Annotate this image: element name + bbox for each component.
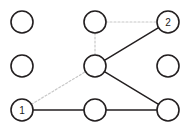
graph-node-n22[interactable] xyxy=(157,99,179,121)
node-circle-n21[interactable] xyxy=(84,99,106,121)
graph-node-n10[interactable] xyxy=(11,55,33,77)
node-circle-n02[interactable] xyxy=(157,11,179,33)
graph-node-n01[interactable] xyxy=(84,11,106,33)
diagram-canvas: 21 xyxy=(0,0,187,131)
graph-node-n20[interactable]: 1 xyxy=(11,99,33,121)
node-circle-n01[interactable] xyxy=(84,11,106,33)
node-circle-n20[interactable] xyxy=(11,99,33,121)
graph-node-n12[interactable] xyxy=(157,55,179,77)
node-circle-n10[interactable] xyxy=(11,55,33,77)
graph-node-n11[interactable] xyxy=(84,55,106,77)
graph-node-n21[interactable] xyxy=(84,99,106,121)
graph-node-n02[interactable]: 2 xyxy=(157,11,179,33)
graph-edge-n20-n11 xyxy=(31,72,85,105)
graph-edge-n11-n02 xyxy=(104,28,158,61)
node-circle-n22[interactable] xyxy=(157,99,179,121)
graph-svg: 21 xyxy=(0,0,187,131)
node-circle-n00[interactable] xyxy=(11,11,33,33)
graph-edge-n11-n22 xyxy=(104,72,158,105)
node-circle-n11[interactable] xyxy=(84,55,106,77)
node-circle-n12[interactable] xyxy=(157,55,179,77)
node-layer: 21 xyxy=(11,11,179,121)
graph-node-n00[interactable] xyxy=(11,11,33,33)
